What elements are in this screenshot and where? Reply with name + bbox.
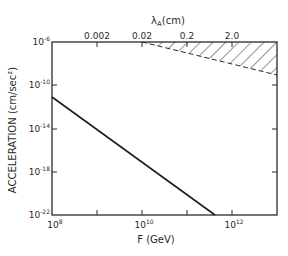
y-axis-title: ACCELERATION (cm/sec²) bbox=[7, 67, 18, 193]
right-ticks bbox=[272, 85, 277, 172]
plot-frame bbox=[52, 42, 277, 215]
x-tick-label: 1010 bbox=[134, 218, 153, 230]
y-tick-label: 10-18 bbox=[29, 165, 50, 177]
data-line bbox=[52, 97, 215, 215]
y-tick-label: 10-6 bbox=[33, 35, 51, 47]
chart: 10-6 10-10 10-14 10-18 10-22 108 1010 10… bbox=[0, 0, 288, 256]
y-tick-label: 10-14 bbox=[29, 122, 50, 134]
top-tick-label: 0.02 bbox=[132, 31, 152, 41]
x-tick-label: 108 bbox=[47, 218, 62, 230]
y-tick-label: 10-10 bbox=[29, 78, 50, 90]
top-tick-label: 0.002 bbox=[84, 31, 110, 41]
top-tick-label: 0.2 bbox=[180, 31, 194, 41]
y-tick-label: 10-22 bbox=[29, 208, 50, 220]
top-tick-label: 2.0 bbox=[225, 31, 240, 41]
x-tick-label: 1012 bbox=[224, 218, 243, 230]
x-axis-title: F (GeV) bbox=[137, 234, 175, 245]
top-axis-title: λA(cm) bbox=[151, 15, 185, 28]
